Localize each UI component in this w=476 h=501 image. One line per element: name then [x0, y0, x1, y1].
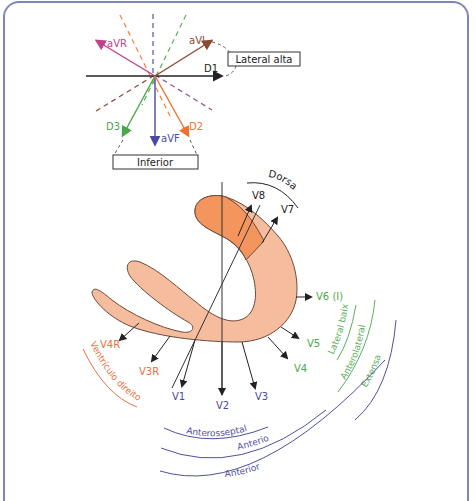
label-v8: V8 [252, 190, 265, 201]
label-v3r: V3R [139, 366, 159, 377]
label-v3: V3 [255, 391, 268, 402]
label-v4: V4 [294, 363, 307, 374]
connector-inferior-left [114, 140, 123, 155]
lead-v4-arrow [268, 337, 287, 358]
lead-v3-arrow [242, 342, 255, 388]
label-anterior-outer: Anterior [224, 461, 261, 479]
frontal-plane: aVR aVL D1 D3 D2 aVF Lateral alta Inferi… [86, 14, 300, 169]
label-d1: D1 [204, 63, 218, 74]
connector-inferior-right [190, 140, 197, 155]
label-v7: V7 [281, 204, 294, 215]
label-inferior: Inferior [137, 157, 174, 168]
label-v1: V1 [172, 391, 185, 402]
label-d3: D3 [106, 121, 120, 132]
horizontal-plane: V8 V7 V6 (I) V5 V4 V3 V2 V1 V3R V4R Dors… [0, 0, 396, 479]
label-d2: D2 [189, 121, 203, 132]
lead-v5-arrow [281, 327, 298, 338]
label-extensa: Extensa [359, 353, 383, 389]
label-avl: aVL [189, 35, 208, 46]
label-lateral-alta: Lateral alta [236, 54, 293, 65]
label-v2: V2 [216, 400, 229, 411]
lead-avl-axis [155, 41, 211, 76]
arc-anterior-outer [160, 360, 385, 476]
label-v6: V6 (I) [316, 291, 343, 302]
dash-line-orange [120, 15, 172, 120]
heart-dorsal-segment [195, 196, 264, 260]
lead-d3-axis [123, 76, 155, 135]
label-v5: V5 [307, 338, 320, 349]
label-v4r: V4R [100, 339, 120, 350]
label-avr: aVR [107, 38, 127, 49]
label-avf: aVF [161, 133, 180, 144]
heart-left-ventricle [92, 196, 297, 342]
lead-v3r-arrow [152, 336, 170, 361]
